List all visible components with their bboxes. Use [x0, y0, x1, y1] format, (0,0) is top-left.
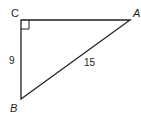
triangle-abc	[21, 20, 130, 99]
right-angle-marker	[21, 20, 29, 29]
vertex-label-b: B	[10, 102, 17, 114]
triangle-diagram: C A B 9 15	[0, 0, 141, 119]
vertex-label-c: C	[11, 7, 19, 19]
side-label-cb: 9	[9, 55, 15, 66]
side-label-ab: 15	[84, 57, 96, 68]
vertex-label-a: A	[132, 7, 140, 19]
